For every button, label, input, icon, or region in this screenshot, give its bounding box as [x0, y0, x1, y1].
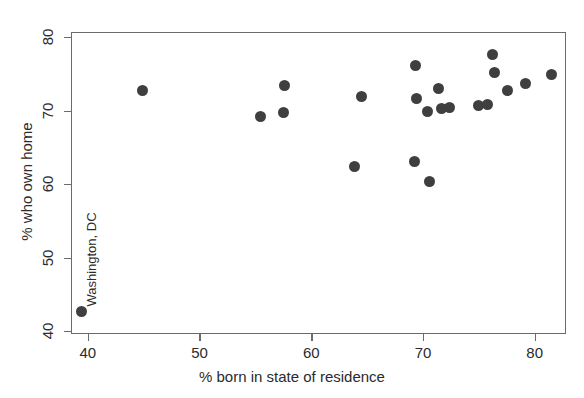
x-tick-80: [535, 334, 536, 341]
x-tick-70: [423, 334, 424, 341]
x-tick-60: [311, 334, 312, 341]
y-axis-title: % who own home: [18, 82, 35, 282]
y-tick-label-70: 70: [39, 98, 56, 124]
x-tick-label-50: 50: [191, 344, 208, 361]
y-tick-70: [64, 111, 71, 112]
x-tick-40: [88, 334, 89, 341]
x-tick-label-70: 70: [415, 344, 432, 361]
y-tick-label-40: 40: [39, 318, 56, 344]
scatter-plot-figure: 4050607080 4050607080 Washington, DC % b…: [0, 0, 584, 398]
data-point: [279, 80, 290, 91]
x-tick-label-60: 60: [303, 344, 320, 361]
y-tick-label-80: 80: [39, 24, 56, 50]
data-point: [489, 67, 500, 78]
data-point: [546, 69, 557, 80]
data-point: [424, 176, 435, 187]
x-axis-title: % born in state of residence: [0, 368, 584, 385]
y-tick-label-50: 50: [39, 245, 56, 271]
annotation-washington-dc: Washington, DC: [84, 205, 99, 315]
x-tick-50: [199, 334, 200, 341]
y-tick-80: [64, 37, 71, 38]
y-tick-label-60: 60: [39, 171, 56, 197]
data-point: [409, 156, 420, 167]
data-point: [422, 106, 433, 117]
x-tick-label-80: 80: [526, 344, 543, 361]
y-tick-60: [64, 184, 71, 185]
data-point: [410, 60, 421, 71]
data-point: [137, 85, 148, 96]
data-point: [487, 49, 498, 60]
data-point: [482, 99, 493, 110]
y-tick-50: [64, 258, 71, 259]
data-point: [278, 107, 289, 118]
y-tick-40: [64, 331, 71, 332]
x-tick-label-40: 40: [79, 344, 96, 361]
